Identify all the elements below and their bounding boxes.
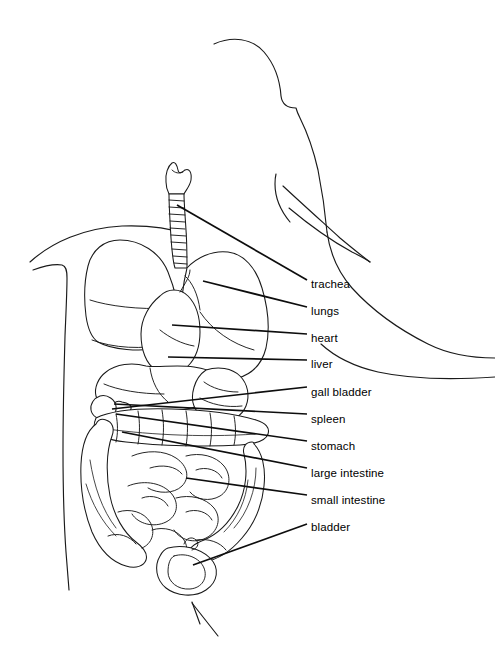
- label-small-intestine: small intestine: [311, 494, 385, 506]
- label-spleen: spleen: [311, 413, 346, 425]
- label-gall-bladder: gall bladder: [311, 386, 372, 398]
- label-bladder: bladder: [311, 521, 350, 533]
- label-layer: trachea lungs heart liver gall bladder s…: [0, 0, 495, 661]
- label-liver: liver: [311, 358, 333, 370]
- label-large-intestine: large intestine: [311, 467, 384, 479]
- label-trachea: trachea: [311, 278, 350, 290]
- label-heart: heart: [311, 332, 338, 344]
- anatomy-diagram-page: trachea lungs heart liver gall bladder s…: [0, 0, 495, 661]
- label-lungs: lungs: [311, 305, 339, 317]
- label-stomach: stomach: [311, 440, 355, 452]
